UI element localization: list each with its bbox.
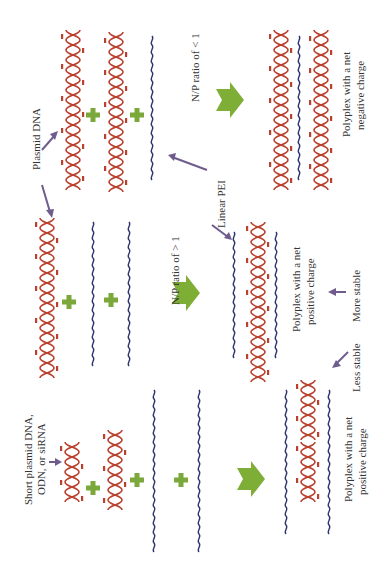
np-ratio-greater-label: N/P ratio of > 1 bbox=[169, 236, 181, 305]
plus-icon bbox=[130, 473, 144, 487]
arrow-icon bbox=[42, 185, 50, 212]
plus-icon bbox=[130, 108, 144, 122]
plasmid-dna-label-group: Plasmid DNA bbox=[30, 108, 58, 218]
polyplex-formation-diagram: Plasmid DNA N/P ratio of < 1 Linear PEI bbox=[0, 0, 388, 570]
linear-pei-label: Linear PEI bbox=[215, 180, 227, 228]
polyplex-negative-label-line2: negative charge bbox=[354, 61, 366, 130]
polyplex-positive2-label-line2: positive charge bbox=[356, 428, 368, 495]
plus-icon bbox=[174, 473, 188, 487]
arrow-icon bbox=[168, 153, 176, 161]
polyplex-positive-label-line1: Polyplex with a net bbox=[290, 247, 302, 332]
bottom-row: Short plasmid DNA, ODN, or siRNA bbox=[22, 380, 368, 552]
short-dna-label-line2: ODN, or siRNA bbox=[35, 423, 47, 495]
short-dna-helix bbox=[103, 430, 126, 510]
linear-pei-chain bbox=[128, 222, 130, 366]
middle-row: N/P ratio of > 1 bbox=[35, 218, 362, 392]
reaction-arrow bbox=[237, 461, 265, 497]
polyplex-positive2-label-line1: Polyplex with a net bbox=[342, 417, 354, 502]
short-dna-label-line1: Short plasmid DNA, bbox=[22, 414, 34, 505]
polyplex-positive: Polyplex with a net positive charge bbox=[233, 222, 316, 382]
polyplex-positive-short: Polyplex with a net positive charge bbox=[285, 380, 368, 534]
polyplex-negative: Polyplex with a net negative charge bbox=[269, 30, 366, 190]
less-stable-label: Less stable bbox=[350, 343, 362, 392]
plus-icon bbox=[86, 108, 100, 122]
linear-pei-chain bbox=[151, 36, 153, 180]
top-row: Plasmid DNA N/P ratio of < 1 Linear PEI bbox=[30, 30, 366, 240]
arrow-icon bbox=[55, 458, 62, 466]
plus-icon bbox=[104, 293, 118, 307]
plasmid-dna-helix bbox=[35, 218, 58, 378]
linear-pei-chain bbox=[153, 390, 155, 552]
np-ratio-less-label: N/P ratio of < 1 bbox=[189, 33, 201, 102]
short-dna-helix bbox=[60, 442, 83, 502]
polyplex-negative-label-line1: Polyplex with a net bbox=[340, 52, 352, 137]
polyplex-positive-label-line2: positive charge bbox=[304, 258, 316, 325]
arrow-icon bbox=[328, 288, 336, 296]
linear-pei-chain bbox=[198, 390, 200, 552]
more-stable-label: More stable bbox=[350, 270, 362, 322]
plasmid-dna-label: Plasmid DNA bbox=[30, 108, 42, 170]
plasmid-dna-helix bbox=[61, 30, 84, 190]
reaction-arrow bbox=[216, 82, 244, 118]
plus-icon bbox=[62, 295, 76, 309]
linear-pei-chain bbox=[92, 222, 94, 366]
plus-icon bbox=[86, 481, 100, 495]
plasmid-dna-helix bbox=[104, 32, 127, 192]
